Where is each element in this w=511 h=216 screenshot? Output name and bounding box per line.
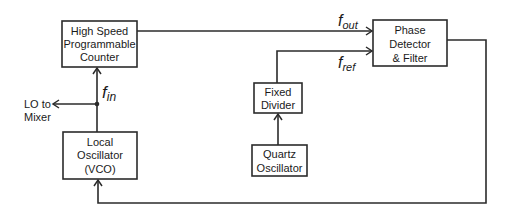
lo-output-label-line-1: LO to [24,98,51,110]
quartz-label-line-1: Quartz [263,148,296,160]
counter-label-line-2: Programmable [63,38,135,50]
counter-label-line-1: High Speed [71,25,129,37]
f-ref-wire [277,51,372,83]
vco-label-line-1: Local [87,136,113,148]
divider-label-line-1: Fixed [265,86,292,98]
counter-block: High Speed Programmable Counter [62,21,137,67]
quartz-label-line-2: Oscillator [257,162,303,174]
f-out-label: fout [338,12,359,31]
fixed-divider-block: Fixed Divider [254,83,302,113]
phase-detector-block: Phase Detector & Filter [373,20,447,66]
f-ref-label: fref [338,54,356,73]
pll-block-diagram: High Speed Programmable Counter Local Os… [0,0,511,216]
lo-output-label-line-2: Mixer [24,111,51,123]
divider-label-line-2: Divider [261,99,296,111]
vco-label-line-3: (VCO) [84,163,115,175]
phase-detector-label-line-2: Detector [389,38,431,50]
phase-detector-label-line-3: & Filter [393,52,428,64]
junction-dot [95,102,100,107]
vco-block: Local Oscillator (VCO) [63,132,137,179]
counter-label-line-3: Counter [80,51,119,63]
f-in-label: fin [102,83,116,104]
phase-detector-label-line-1: Phase [394,24,425,36]
vco-label-line-2: Oscillator [77,149,123,161]
quartz-oscillator-block: Quartz Oscillator [252,145,307,176]
